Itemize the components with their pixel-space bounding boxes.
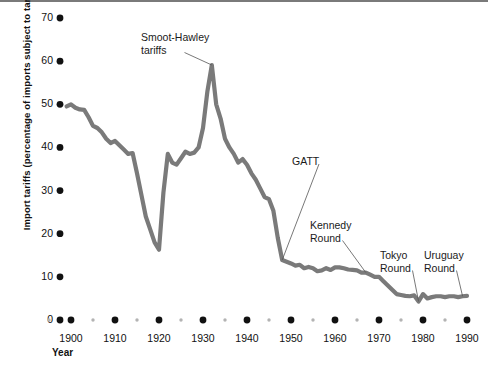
x-minor-tick-dot [267, 318, 270, 321]
x-minor-tick-dot [399, 318, 402, 321]
x-tick-dot [200, 317, 207, 324]
x-tick-dot [376, 317, 383, 324]
axis-dot-markers [47, 15, 470, 324]
plot-area [0, 0, 488, 367]
x-tick-dot [288, 317, 295, 324]
y-tick-dot [57, 58, 64, 65]
annotation-leader-line [457, 271, 463, 297]
x-tick-dot [68, 317, 75, 324]
tariff-line-chart: Import tariffs (percentage of imports su… [0, 0, 488, 367]
x-minor-tick-dot [355, 318, 358, 321]
x-minor-tick-dot [443, 318, 446, 321]
x-minor-tick-dot [135, 318, 138, 321]
y-tick-dot [57, 101, 64, 108]
annotation-leader-lines [185, 53, 463, 302]
x-tick-dot [156, 317, 163, 324]
y-tick-dot [57, 317, 64, 324]
annotation-leader-line [185, 53, 212, 66]
x-minor-tick-dot [311, 318, 314, 321]
y-tick-dot [57, 144, 64, 151]
annotation-leader-line [282, 164, 319, 260]
x-minor-tick-dot [223, 318, 226, 321]
y-tick-dot [57, 273, 64, 280]
y-tick-dot [57, 15, 64, 22]
y-tick-dot [57, 187, 64, 194]
tariff-series-line [67, 65, 467, 301]
x-tick-dot [244, 317, 251, 324]
x-tick-dot [112, 317, 119, 324]
x-tick-dot [464, 317, 471, 324]
x-tick-dot [420, 317, 427, 324]
x-minor-tick-dot [47, 318, 50, 321]
x-minor-tick-dot [91, 318, 94, 321]
x-tick-dot [332, 317, 339, 324]
y-tick-dot [57, 230, 64, 237]
x-minor-tick-dot [179, 318, 182, 321]
